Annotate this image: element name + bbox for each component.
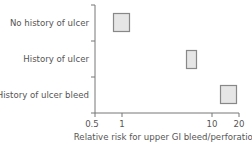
forest-plot: 0.5 1 10 20 Relative risk for upper GI b… <box>0 0 252 145</box>
estimate-box-history-of-ulcer-bleed <box>221 86 237 104</box>
x-axis-title: Relative risk for upper GI bleed/perfora… <box>74 132 252 142</box>
x-tick-label: 10 <box>207 119 218 129</box>
x-tick-label: 0.5 <box>85 119 99 129</box>
row-label-no-history-of-ulcer: No history of ulcer <box>10 18 90 28</box>
x-tick-label: 20 <box>234 119 245 129</box>
row-label-history-of-ulcer-bleed: History of ulcer bleed <box>0 90 89 100</box>
x-tick-label: 1 <box>119 119 124 129</box>
estimate-box-history-of-ulcer <box>187 51 197 69</box>
row-label-history-of-ulcer: History of ulcer <box>23 54 89 64</box>
estimate-box-no-history <box>114 14 130 32</box>
